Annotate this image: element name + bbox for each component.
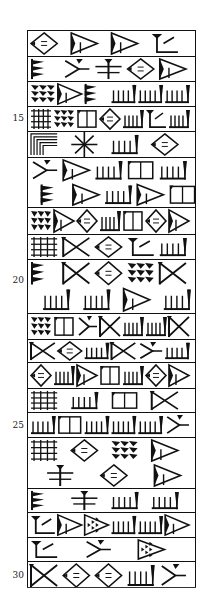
stacked-wedges-sign	[128, 263, 154, 283]
comb-sign	[123, 366, 144, 385]
stacked-wedges-sign	[112, 441, 138, 459]
comb-sign	[138, 85, 163, 103]
wedge-large-sign	[165, 515, 189, 535]
box-sign	[100, 366, 119, 384]
cuneiform-line-21	[28, 314, 195, 339]
stacked-wedges-sign	[54, 110, 74, 127]
tablet-line-13	[28, 57, 195, 82]
cuneiform-line-12	[28, 31, 195, 56]
wedge-large-sign	[54, 210, 74, 232]
box-sign	[128, 161, 153, 179]
tablet-line-25	[28, 413, 195, 438]
comb-sign	[169, 110, 190, 128]
diamond-sign	[128, 59, 154, 79]
wedge-large-sign	[169, 210, 189, 232]
cuneiform-line-24	[28, 389, 195, 412]
wedge-large-sign	[58, 84, 82, 104]
cuneiform-line-30	[28, 562, 195, 589]
triple-wedge-sign	[41, 184, 54, 205]
wedge-large-sign	[124, 288, 150, 311]
diamond-sign	[58, 342, 82, 360]
comb-sign	[85, 416, 110, 434]
triple-wedge-sign	[31, 262, 44, 285]
angle-sign-sign	[128, 238, 154, 255]
diamond-sign	[63, 564, 89, 587]
comb-sign	[128, 565, 155, 586]
triple-wedge-sign	[85, 84, 97, 104]
tablet-line-16	[28, 132, 195, 158]
diamond-sign	[31, 365, 51, 386]
comb-sign	[112, 416, 137, 434]
cuneiform-line-15	[28, 107, 195, 131]
cuneiform-line-25	[28, 413, 195, 437]
comb-sign	[71, 392, 98, 409]
grid-sign-sign	[31, 440, 57, 461]
bow-tie-sign	[98, 316, 120, 337]
line-number-15: 15	[4, 113, 24, 123]
comb-sign	[95, 161, 122, 180]
bow-tie-sign	[29, 342, 55, 360]
angle-sign-sign	[146, 110, 166, 127]
cuneiform-line-17	[28, 158, 195, 207]
cuneiform-line-29	[28, 538, 195, 561]
tablet-line-19	[28, 235, 195, 260]
angle-sign-sign	[152, 34, 178, 52]
tablet-line-15	[28, 107, 195, 132]
triple-wedge-sign	[31, 59, 44, 79]
comb-sign	[164, 289, 191, 310]
line-number-30: 30	[4, 570, 24, 580]
comb-sign	[112, 492, 139, 509]
tablet-bottom-edge	[27, 587, 196, 588]
tablet-line-12	[28, 31, 195, 57]
tablet-line-20	[28, 260, 195, 314]
nested-corner-sign	[31, 134, 57, 155]
wedge-large-sign	[160, 59, 186, 79]
bow-tie-sign	[167, 316, 189, 337]
comb-sign	[100, 211, 121, 231]
comb-sign	[146, 317, 167, 336]
hook-sign	[65, 59, 89, 77]
box-sign	[77, 110, 96, 127]
tablet-line-29	[28, 538, 195, 562]
box-sign	[112, 392, 137, 408]
diamond-sign	[77, 210, 97, 232]
comb-sign	[165, 85, 190, 103]
tablet-line-23	[28, 363, 195, 389]
wedge-large-sign	[154, 465, 180, 486]
comb-sign	[160, 161, 187, 180]
hook-sign	[87, 540, 111, 557]
cuneiform-line-18	[28, 208, 195, 234]
cuneiform-tablet-facsimile	[27, 30, 196, 588]
comb-sign	[123, 317, 144, 336]
wedge-large-sign	[58, 515, 82, 535]
angle-sign-sign	[31, 516, 55, 533]
stacked-wedges-sign	[31, 317, 51, 335]
cross-sign-sign	[71, 491, 97, 510]
tablet-line-26	[28, 438, 195, 489]
bow-tie-sign	[29, 564, 57, 587]
tablet-line-24	[28, 389, 195, 413]
tablet-line-17	[28, 158, 195, 208]
triple-wedge-sign	[31, 491, 44, 510]
cuneiform-line-22	[28, 340, 195, 362]
stacked-wedges-sign	[31, 85, 55, 102]
star-sign-sign	[71, 132, 97, 157]
cuneiform-line-13	[28, 57, 195, 81]
tablet-line-28	[28, 513, 195, 538]
comb-sign	[165, 343, 190, 359]
grid-sign-sign	[31, 391, 57, 410]
box-sign	[123, 211, 142, 230]
comb-sign	[112, 135, 139, 154]
triangle-dots-sign	[85, 515, 109, 535]
cuneiform-line-23	[28, 363, 195, 388]
wedge-large-sign	[169, 365, 189, 386]
hook-sign	[79, 316, 97, 335]
cuneiform-line-28	[28, 513, 195, 537]
line-number-25: 25	[4, 420, 24, 430]
box-sign	[58, 416, 81, 433]
bow-tie-sign	[109, 342, 135, 360]
bow-tie-sign	[61, 262, 89, 285]
wedge-large-sign	[112, 33, 138, 54]
hook-sign	[162, 564, 186, 585]
cuneiform-line-19	[28, 235, 195, 259]
